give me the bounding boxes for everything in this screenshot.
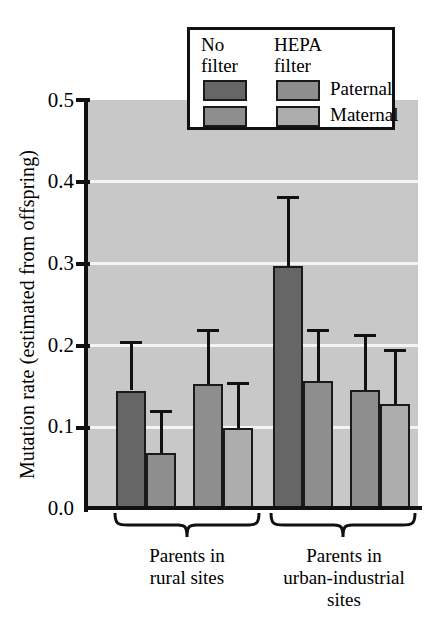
bar-rural-hepa-maternal [223,428,253,508]
error-bar-urban-nofilter-paternal [273,196,303,265]
group-brace-urban [268,510,418,540]
legend-header-hepa-filter: HEPA filter [274,34,322,76]
y-tick-label: 0.5 [12,90,74,111]
legend-swatch-hepa-paternal [276,80,320,101]
gridline-0.3 [88,262,418,265]
bar-urban-hepa-paternal [350,390,380,508]
gridline-0.4 [88,180,418,183]
bar-rural-nofilter-maternal [146,453,176,508]
legend-label-maternal: Maternal [330,104,399,125]
error-bar-rural-hepa-paternal [193,329,223,385]
y-tick-label: 0.3 [12,253,74,274]
error-bar-rural-nofilter-maternal [146,410,176,453]
bar-urban-nofilter-maternal [303,381,333,508]
y-tick-0.1 [76,426,90,430]
y-tick-label: 0.4 [12,171,74,192]
y-tick-label: 0.1 [12,416,74,437]
y-tick-label: 0.0 [12,498,74,519]
group-brace-rural [112,510,262,540]
y-tick-label: 0.2 [12,335,74,356]
error-bar-urban-nofilter-maternal [303,329,333,380]
error-bar-rural-hepa-maternal [223,382,253,429]
legend-header-no-filter: No filter [201,34,238,76]
group-label-urban: Parents in urban-industrial sites [258,545,430,611]
y-tick-0.4 [76,180,90,184]
legend-swatch-hepa-maternal [276,106,320,127]
bar-urban-hepa-maternal [380,404,410,508]
y-tick-0.5 [76,98,90,102]
plot-area [88,100,418,508]
legend-label-paternal: Paternal [330,78,392,99]
bar-rural-hepa-paternal [193,384,223,508]
error-bar-urban-hepa-paternal [350,334,380,390]
error-bar-rural-nofilter-paternal [116,341,146,391]
legend: No filter HEPA filter Paternal Maternal [187,27,395,130]
group-label-rural: Parents in rural sites [107,545,267,589]
y-axis-tick-labels: 0.5 0.4 0.3 0.2 0.1 0.0 [0,0,74,634]
y-tick-0.3 [76,262,90,266]
y-tick-0.2 [76,344,90,348]
legend-swatch-nofilter-paternal [203,80,247,101]
y-axis-line [84,98,88,512]
figure: Mutation rate (estimated from offspring)… [0,0,443,634]
bar-urban-nofilter-paternal [273,266,303,508]
bar-rural-nofilter-paternal [116,391,146,509]
legend-swatch-nofilter-maternal [203,106,247,127]
error-bar-urban-hepa-maternal [380,349,410,404]
